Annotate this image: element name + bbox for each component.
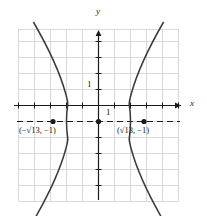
right-focus-label: (√13, −1) (117, 126, 149, 135)
left-focus-label: (−√13, −1) (19, 126, 56, 135)
right-focus-point (141, 119, 146, 124)
hyperbola-figure: y x 1 1 (−√13, −1) (√13, −1) (0, 0, 207, 216)
y-axis-label: y (96, 7, 100, 16)
y-axis-arrowhead (96, 30, 102, 36)
y-axis-tick-label-one: 1 (87, 80, 92, 89)
x-axis-label: x (190, 99, 194, 108)
center-point (96, 119, 101, 124)
x-axis-tick-label-one: 1 (106, 108, 111, 117)
left-focus-point (50, 119, 55, 124)
graph-canvas (0, 0, 207, 216)
